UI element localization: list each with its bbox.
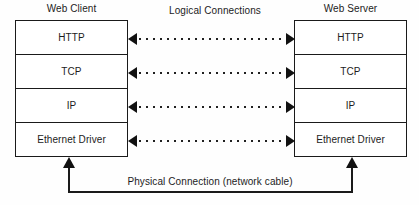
logical-connection-ethernet	[128, 135, 295, 148]
arrow-left-icon	[128, 135, 137, 147]
physical-connection-caption: Physical Connection (network cable)	[95, 176, 325, 187]
server-layer-http: HTTP	[295, 21, 406, 55]
server-layer-ip: IP	[295, 89, 406, 123]
logical-connections-caption: Logical Connections	[150, 5, 280, 16]
arrow-right-icon	[286, 67, 295, 79]
arrow-left-icon	[128, 67, 137, 79]
physical-riser-left	[68, 166, 70, 193]
dotted-line	[139, 72, 284, 74]
logical-connection-http	[128, 33, 295, 46]
arrow-left-icon	[128, 33, 137, 45]
web-server-stack: HTTP TCP IP Ethernet Driver	[294, 20, 407, 157]
web-client-caption: Web Client	[15, 3, 128, 14]
server-layer-ethernet-driver: Ethernet Driver	[295, 123, 406, 156]
arrow-up-icon-right	[346, 157, 358, 168]
web-client-stack: HTTP TCP IP Ethernet Driver	[15, 20, 128, 157]
logical-connection-ip	[128, 101, 295, 114]
arrow-up-icon-left	[63, 157, 75, 168]
dotted-line	[139, 38, 284, 40]
dotted-line	[139, 106, 284, 108]
web-server-caption: Web Server	[294, 3, 407, 14]
logical-connection-tcp	[128, 67, 295, 80]
physical-connection-line	[68, 191, 353, 193]
server-layer-tcp: TCP	[295, 55, 406, 89]
dotted-line	[139, 140, 284, 142]
network-layer-diagram: Web Client Logical Connections Web Serve…	[0, 0, 419, 205]
arrow-right-icon	[286, 33, 295, 45]
arrow-right-icon	[286, 101, 295, 113]
physical-riser-right	[351, 166, 353, 193]
client-layer-tcp: TCP	[16, 55, 127, 89]
client-layer-http: HTTP	[16, 21, 127, 55]
client-layer-ethernet-driver: Ethernet Driver	[16, 123, 127, 156]
client-layer-ip: IP	[16, 89, 127, 123]
arrow-left-icon	[128, 101, 137, 113]
arrow-right-icon	[286, 135, 295, 147]
